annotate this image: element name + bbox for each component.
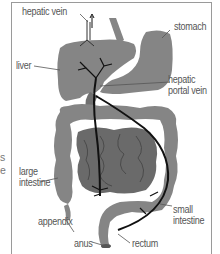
label-hepatic-portal-vein: hepatic portal vein bbox=[168, 74, 207, 96]
label-appendix: appendix bbox=[38, 216, 73, 227]
small-intestine bbox=[76, 127, 157, 193]
label-hepatic-portal-vein-line2: portal vein bbox=[168, 85, 207, 96]
label-hepatic-vein: hepatic vein bbox=[22, 6, 67, 17]
label-anus: anus bbox=[74, 238, 93, 249]
label-small-intestine-line2: intestine bbox=[173, 215, 204, 226]
label-large-intestine: large intestine bbox=[19, 166, 50, 188]
label-stomach: stomach bbox=[174, 21, 206, 32]
anus-opening bbox=[101, 244, 111, 248]
label-small-intestine: small intestine bbox=[173, 204, 204, 226]
label-liver: liver bbox=[16, 60, 31, 71]
label-rectum: rectum bbox=[132, 238, 158, 249]
label-large-intestine-line2: intestine bbox=[19, 177, 50, 188]
